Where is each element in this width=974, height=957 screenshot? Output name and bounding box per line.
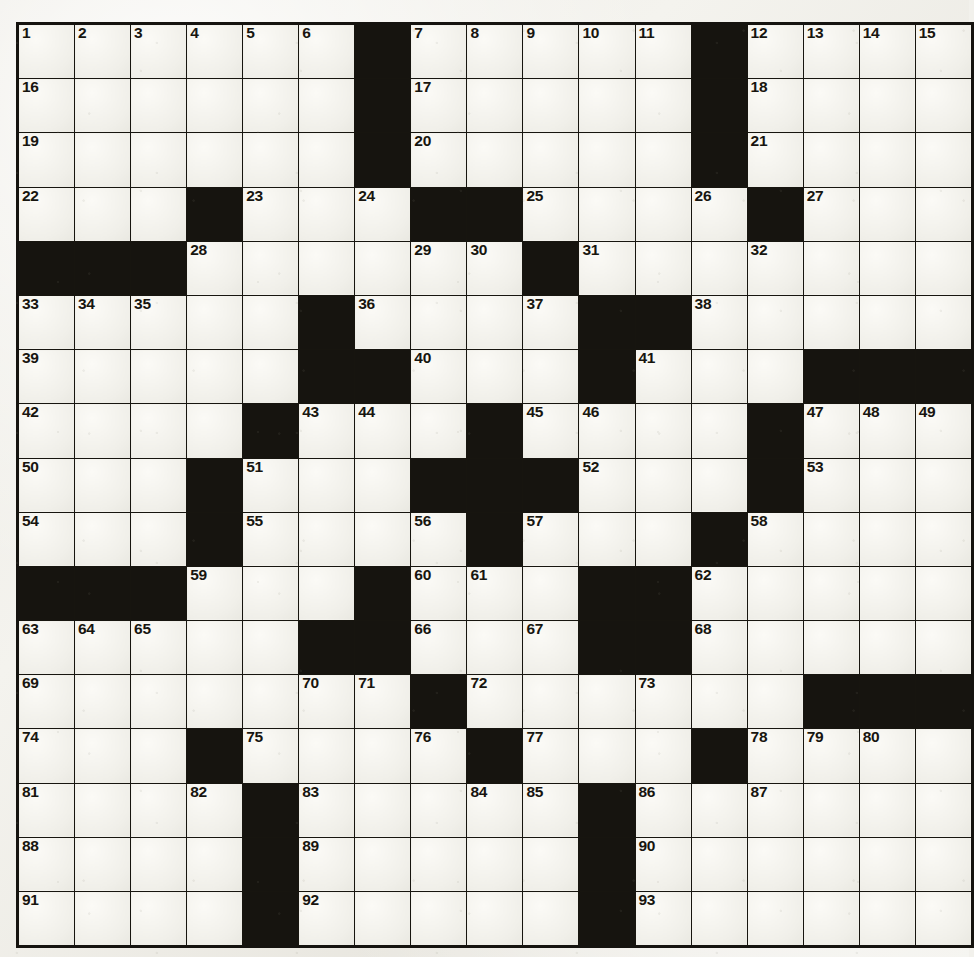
grid-cell[interactable]: 26: [691, 187, 747, 241]
grid-cell[interactable]: [467, 350, 523, 404]
grid-cell[interactable]: [243, 295, 299, 349]
grid-cell[interactable]: [243, 79, 299, 133]
grid-cell[interactable]: [355, 892, 411, 947]
grid-cell[interactable]: [915, 566, 972, 620]
grid-cell[interactable]: 80: [859, 729, 915, 783]
grid-cell[interactable]: 49: [915, 404, 972, 458]
grid-cell[interactable]: 40: [411, 350, 467, 404]
grid-cell[interactable]: 8: [467, 24, 523, 79]
grid-cell[interactable]: [859, 892, 915, 947]
grid-cell[interactable]: [299, 729, 355, 783]
grid-cell[interactable]: [579, 187, 635, 241]
grid-cell[interactable]: [299, 566, 355, 620]
grid-cell[interactable]: 60: [411, 566, 467, 620]
grid-cell[interactable]: [915, 133, 972, 187]
grid-cell[interactable]: [131, 729, 187, 783]
grid-cell[interactable]: [131, 675, 187, 729]
grid-cell[interactable]: 62: [691, 566, 747, 620]
grid-cell[interactable]: 19: [18, 133, 75, 187]
grid-cell[interactable]: [299, 241, 355, 295]
grid-cell[interactable]: 85: [523, 783, 579, 837]
grid-cell[interactable]: 2: [75, 24, 131, 79]
grid-cell[interactable]: [355, 837, 411, 891]
grid-cell[interactable]: 36: [355, 295, 411, 349]
grid-cell[interactable]: [355, 241, 411, 295]
grid-cell[interactable]: [187, 350, 243, 404]
grid-cell[interactable]: [579, 512, 635, 566]
grid-cell[interactable]: [187, 837, 243, 891]
grid-cell[interactable]: [859, 295, 915, 349]
grid-cell[interactable]: 64: [75, 621, 131, 675]
grid-cell[interactable]: [691, 892, 747, 947]
grid-cell[interactable]: 44: [355, 404, 411, 458]
grid-cell[interactable]: [747, 837, 803, 891]
grid-cell[interactable]: 47: [803, 404, 859, 458]
grid-cell[interactable]: [75, 729, 131, 783]
grid-cell[interactable]: 56: [411, 512, 467, 566]
grid-cell[interactable]: [187, 675, 243, 729]
grid-cell[interactable]: 67: [523, 621, 579, 675]
grid-cell[interactable]: [523, 892, 579, 947]
grid-cell[interactable]: 51: [243, 458, 299, 512]
grid-cell[interactable]: [859, 783, 915, 837]
grid-cell[interactable]: [859, 187, 915, 241]
grid-cell[interactable]: [523, 133, 579, 187]
grid-cell[interactable]: [859, 621, 915, 675]
grid-cell[interactable]: [915, 187, 972, 241]
grid-cell[interactable]: 41: [635, 350, 691, 404]
grid-cell[interactable]: 32: [747, 241, 803, 295]
grid-cell[interactable]: 82: [187, 783, 243, 837]
grid-cell[interactable]: [243, 241, 299, 295]
grid-cell[interactable]: 69: [18, 675, 75, 729]
grid-cell[interactable]: [747, 892, 803, 947]
grid-cell[interactable]: [747, 621, 803, 675]
grid-cell[interactable]: 54: [18, 512, 75, 566]
grid-cell[interactable]: [75, 133, 131, 187]
grid-cell[interactable]: 34: [75, 295, 131, 349]
grid-cell[interactable]: [803, 566, 859, 620]
grid-cell[interactable]: [635, 241, 691, 295]
grid-cell[interactable]: [915, 729, 972, 783]
grid-cell[interactable]: [467, 621, 523, 675]
grid-cell[interactable]: [915, 837, 972, 891]
grid-cell[interactable]: [859, 241, 915, 295]
grid-cell[interactable]: [187, 133, 243, 187]
grid-cell[interactable]: [915, 241, 972, 295]
grid-cell[interactable]: [859, 512, 915, 566]
grid-cell[interactable]: [243, 621, 299, 675]
grid-cell[interactable]: [75, 512, 131, 566]
grid-cell[interactable]: 66: [411, 621, 467, 675]
grid-cell[interactable]: 15: [915, 24, 972, 79]
grid-cell[interactable]: [803, 79, 859, 133]
grid-cell[interactable]: [75, 675, 131, 729]
grid-cell[interactable]: [691, 458, 747, 512]
grid-cell[interactable]: 31: [579, 241, 635, 295]
grid-cell[interactable]: [467, 837, 523, 891]
grid-cell[interactable]: 39: [18, 350, 75, 404]
grid-cell[interactable]: 55: [243, 512, 299, 566]
grid-cell[interactable]: 93: [635, 892, 691, 947]
grid-cell[interactable]: 13: [803, 24, 859, 79]
grid-cell[interactable]: [915, 79, 972, 133]
grid-cell[interactable]: 72: [467, 675, 523, 729]
grid-cell[interactable]: 17: [411, 79, 467, 133]
grid-cell[interactable]: [803, 295, 859, 349]
grid-cell[interactable]: [187, 892, 243, 947]
grid-cell[interactable]: 84: [467, 783, 523, 837]
grid-cell[interactable]: [691, 675, 747, 729]
grid-cell[interactable]: 79: [803, 729, 859, 783]
grid-cell[interactable]: [747, 566, 803, 620]
grid-cell[interactable]: 68: [691, 621, 747, 675]
grid-cell[interactable]: [131, 404, 187, 458]
grid-cell[interactable]: 48: [859, 404, 915, 458]
grid-cell[interactable]: [131, 79, 187, 133]
grid-cell[interactable]: [131, 892, 187, 947]
grid-cell[interactable]: [859, 133, 915, 187]
grid-cell[interactable]: 38: [691, 295, 747, 349]
grid-cell[interactable]: [579, 79, 635, 133]
grid-cell[interactable]: [187, 621, 243, 675]
grid-cell[interactable]: [467, 133, 523, 187]
grid-cell[interactable]: [411, 295, 467, 349]
grid-cell[interactable]: [411, 837, 467, 891]
grid-cell[interactable]: 33: [18, 295, 75, 349]
